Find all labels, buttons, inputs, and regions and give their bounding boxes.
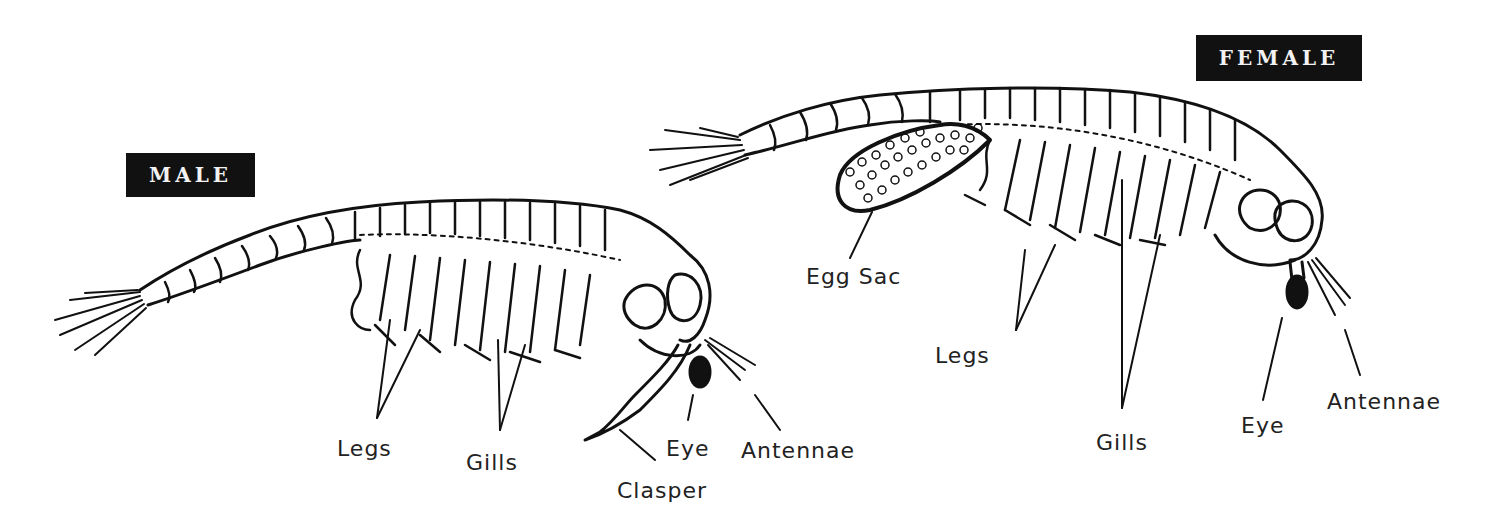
brine-shrimp-diagram: MALE FEMALE Legs Gills Clasper Eye Anten…: [0, 0, 1501, 529]
female-label-antennae: Antennae: [1327, 389, 1441, 414]
male-title-badge: MALE: [126, 153, 255, 197]
male-label-legs: Legs: [337, 436, 392, 461]
female-legs: [965, 140, 1220, 245]
male-shrimp-drawing: [55, 200, 780, 460]
male-label-clasper: Clasper: [617, 478, 707, 503]
female-label-gills: Gills: [1096, 430, 1148, 455]
male-label-gills: Gills: [466, 450, 518, 475]
female-antennae: [1308, 258, 1350, 315]
female-head: [1215, 190, 1312, 265]
female-label-legs: Legs: [935, 343, 990, 368]
male-antennae: [705, 338, 755, 380]
male-head: [624, 274, 701, 356]
male-label-eye: Eye: [666, 436, 709, 461]
egg-sac: [838, 124, 990, 211]
female-tail-icon: [650, 128, 748, 185]
male-label-antennae: Antennae: [741, 438, 855, 463]
female-shrimp-drawing: [650, 88, 1360, 408]
male-eye-icon: [690, 357, 710, 387]
female-label-eye: Eye: [1241, 413, 1284, 438]
female-leader-lines: [850, 180, 1360, 408]
male-title: MALE: [149, 163, 232, 187]
male-body-outline: [140, 200, 710, 341]
female-title-badge: FEMALE: [1196, 35, 1362, 81]
male-leader-lines: [377, 320, 780, 460]
female-title: FEMALE: [1219, 46, 1339, 70]
male-tail-icon: [55, 290, 146, 355]
female-eye-icon: [1287, 276, 1307, 308]
male-clasper: [585, 345, 690, 440]
female-label-egg-sac: Egg Sac: [806, 264, 901, 289]
